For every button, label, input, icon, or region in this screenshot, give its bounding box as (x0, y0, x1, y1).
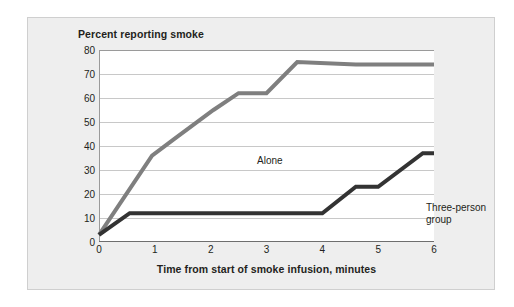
x-tick-label: 3 (252, 244, 282, 255)
x-axis-title: Time from start of smoke infusion, minut… (99, 263, 434, 275)
x-tick-label: 2 (196, 244, 226, 255)
y-tick-label: 50 (55, 117, 95, 128)
y-tick-label: 40 (55, 141, 95, 152)
series-line-alone (99, 62, 434, 235)
x-tick-label: 4 (307, 244, 337, 255)
x-tick-label: 0 (84, 244, 114, 255)
y-tick-label: 80 (55, 45, 95, 56)
x-axis-tick-labels: 0123456 (99, 244, 434, 260)
y-tick-label: 20 (55, 189, 95, 200)
y-tick-label: 10 (55, 213, 95, 224)
series-label-alone: Alone (257, 155, 283, 167)
y-tick-label: 70 (55, 69, 95, 80)
series-lines (99, 50, 434, 242)
series-label-three-person-group: Three-person group (426, 202, 486, 226)
x-tick-label: 6 (419, 244, 449, 255)
plot-area: Alone Three-person group (99, 50, 434, 242)
x-tick-label: 5 (363, 244, 393, 255)
series-label-group-line2: group (426, 214, 486, 226)
y-tick-label: 30 (55, 165, 95, 176)
y-tick-label: 60 (55, 93, 95, 104)
chart-title: Percent reporting smoke (78, 28, 204, 40)
y-axis-tick-labels: 01020304050607080 (55, 50, 95, 242)
series-label-group-line1: Three-person (426, 202, 486, 214)
figure-canvas: Percent reporting smoke 0102030405060708… (0, 0, 514, 307)
x-tick-label: 1 (140, 244, 170, 255)
